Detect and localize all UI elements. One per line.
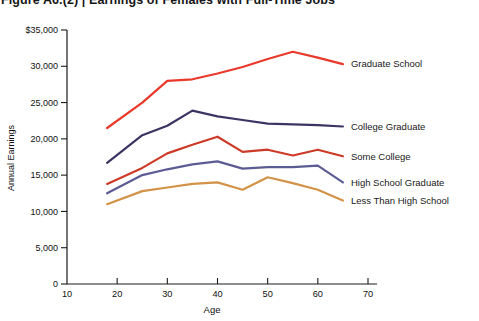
y-axis-label: Annual Earnings <box>6 125 16 191</box>
series-line-college-graduate <box>107 111 343 163</box>
x-tick-label: 50 <box>263 289 273 299</box>
series-label-high-school-graduate: High School Graduate <box>351 177 444 188</box>
y-tick-label: 20,000 <box>30 134 58 144</box>
y-tick-label: 15,000 <box>30 170 58 180</box>
y-tick-label: 0 <box>53 279 58 289</box>
series-label-college-graduate: College Graduate <box>351 121 425 132</box>
x-tick-label: 20 <box>112 289 122 299</box>
series-line-less-than-high-school <box>107 177 343 204</box>
x-tick-label: 40 <box>212 289 222 299</box>
series-label-less-than-high-school: Less Than High School <box>351 195 449 206</box>
y-tick-label: 5,000 <box>35 243 58 253</box>
x-tick-label: 30 <box>162 289 172 299</box>
earnings-figure: Figure A6.(2) | Earnings of Females with… <box>0 0 479 321</box>
y-tick-label: 10,000 <box>30 207 58 217</box>
series-line-some-college <box>107 137 343 184</box>
y-tick-label: $35,000 <box>25 25 58 35</box>
x-tick-label: 60 <box>313 289 323 299</box>
series-label-some-college: Some College <box>351 151 411 162</box>
x-tick-label: 10 <box>62 289 72 299</box>
line-chart: 05,00010,00015,00020,00025,00030,000$35,… <box>0 0 479 321</box>
series-label-graduate-school: Graduate School <box>351 58 422 69</box>
y-tick-label: 25,000 <box>30 98 58 108</box>
x-axis-label: Age <box>204 304 221 315</box>
x-tick-label: 70 <box>363 289 373 299</box>
series-line-high-school-graduate <box>107 161 343 193</box>
y-tick-label: 30,000 <box>30 61 58 71</box>
